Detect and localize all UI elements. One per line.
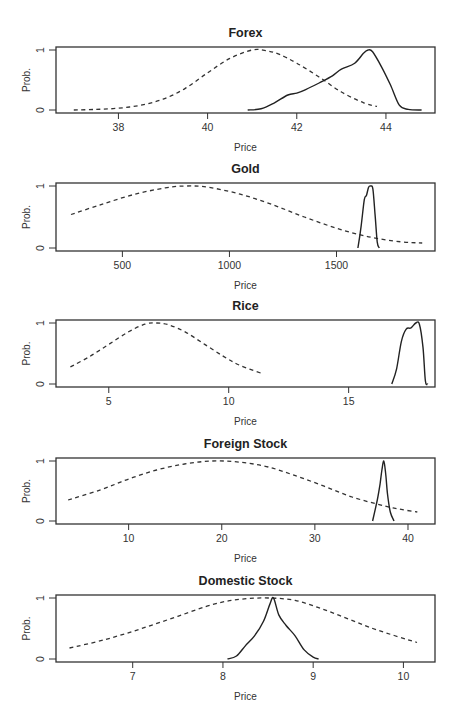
panel-title: Rice [232,299,258,313]
y-tick-label: 1 [34,320,46,326]
panel-title: Gold [231,162,259,176]
panel-title: Foreign Stock [204,437,287,451]
y-tick-label: 0 [34,107,46,113]
x-tick-label: 1000 [218,259,242,271]
x-tick-label: 30 [309,532,321,544]
y-tick-label: 1 [34,47,46,53]
x-tick-label: 7 [130,670,136,682]
y-tick-label: 0 [34,381,46,387]
y-tick-label: 1 [34,183,46,189]
x-tick-label: 38 [113,121,125,133]
x-tick-label: 500 [114,259,132,271]
solid-density-curve [248,50,422,110]
x-tick-label: 5 [106,395,112,407]
panel-gold: Gold01Prob.50010001500Price [21,162,435,291]
plot-frame [56,458,435,524]
dashed-density-curve [70,598,418,648]
panel-domestic-stock: Domestic Stock01Prob.78910Price [21,574,435,702]
x-tick-label: 44 [380,121,392,133]
y-axis-label: Prob. [21,617,32,641]
panel-foreign-stock: Foreign Stock01Prob.10203040Price [21,437,435,564]
y-tick-label: 0 [34,656,46,662]
x-tick-label: 10 [123,532,135,544]
panel-rice: Rice01Prob.51015Price [21,299,435,427]
plot-frame [56,47,435,113]
y-axis-label: Prob. [21,342,32,366]
panels-container: Forex01Prob.38404244PriceGold01Prob.5001… [21,26,435,702]
solid-density-curve [228,598,319,659]
y-axis-label: Prob. [21,205,32,229]
y-tick-label: 0 [34,518,46,524]
plot-frame [56,595,435,662]
x-axis-label: Price [234,280,257,291]
x-tick-label: 10 [223,395,235,407]
panel-title: Domestic Stock [199,574,293,588]
x-tick-label: 42 [291,121,303,133]
x-axis-label: Price [234,142,257,153]
solid-density-curve [392,322,428,385]
dashed-density-curve [68,461,417,512]
x-axis-label: Price [234,553,257,564]
x-tick-label: 10 [398,670,410,682]
plot-frame [56,320,435,387]
y-tick-label: 1 [34,458,46,464]
x-axis-label: Price [234,416,257,427]
plot-frame [56,183,435,251]
y-axis-label: Prob. [21,479,32,503]
x-tick-label: 9 [310,670,316,682]
dashed-density-curve [71,186,422,243]
x-tick-label: 1500 [325,259,349,271]
solid-density-curve [373,461,394,521]
x-tick-label: 40 [202,121,214,133]
x-tick-label: 20 [216,532,228,544]
y-axis-label: Prob. [21,68,32,92]
x-tick-label: 40 [402,532,414,544]
x-tick-label: 15 [343,395,355,407]
panel-forex: Forex01Prob.38404244Price [21,26,435,153]
dashed-density-curve [70,323,262,374]
x-axis-label: Price [234,691,257,702]
panel-title: Forex [228,26,262,40]
dashed-density-curve [74,49,377,110]
y-tick-label: 1 [34,595,46,601]
y-tick-label: 0 [34,245,46,251]
x-tick-label: 8 [220,670,226,682]
density-figure: Forex01Prob.38404244PriceGold01Prob.5001… [0,0,460,719]
